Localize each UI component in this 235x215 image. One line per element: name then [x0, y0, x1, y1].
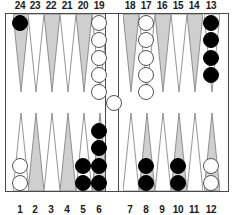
checker-black-point-8[interactable] — [138, 175, 154, 191]
point-label-12: 12 — [203, 204, 219, 215]
checker-white-point-12[interactable] — [203, 175, 219, 191]
checker-black-point-6[interactable] — [91, 123, 107, 139]
point-label-15: 15 — [170, 0, 186, 11]
point-label-9: 9 — [154, 204, 170, 215]
point-15[interactable] — [171, 14, 187, 92]
point-label-19: 19 — [91, 0, 107, 11]
point-20[interactable] — [76, 14, 92, 92]
point-label-10: 10 — [170, 204, 186, 215]
bar-checker-white[interactable] — [106, 95, 122, 111]
checker-black-point-13[interactable] — [203, 15, 219, 31]
checker-white-point-17[interactable] — [138, 50, 154, 66]
point-3[interactable] — [44, 113, 60, 191]
checker-white-point-12[interactable] — [203, 158, 219, 174]
point-label-5: 5 — [75, 204, 91, 215]
checker-black-point-10[interactable] — [170, 175, 186, 191]
point-label-18: 18 — [122, 0, 138, 11]
point-label-11: 11 — [186, 204, 202, 215]
checker-black-point-10[interactable] — [170, 158, 186, 174]
checker-black-point-6[interactable] — [91, 175, 107, 191]
point-label-8: 8 — [138, 204, 154, 215]
point-21[interactable] — [60, 14, 76, 92]
point-label-3: 3 — [43, 204, 59, 215]
point-label-6: 6 — [91, 204, 107, 215]
point-11[interactable] — [187, 113, 203, 191]
checker-white-point-1[interactable] — [12, 175, 28, 191]
point-label-14: 14 — [186, 0, 202, 11]
checker-white-point-1[interactable] — [12, 158, 28, 174]
checker-white-point-19[interactable] — [91, 67, 107, 83]
point-4[interactable] — [60, 113, 76, 191]
checker-black-point-24[interactable] — [12, 15, 28, 31]
checker-black-point-13[interactable] — [203, 67, 219, 83]
point-label-23: 23 — [27, 0, 43, 11]
point-2[interactable] — [28, 113, 44, 191]
point-18[interactable] — [123, 14, 139, 92]
checker-black-point-5[interactable] — [75, 158, 91, 174]
point-label-1: 1 — [12, 204, 28, 215]
point-22[interactable] — [44, 14, 60, 92]
point-16[interactable] — [155, 14, 171, 92]
point-label-22: 22 — [43, 0, 59, 11]
backgammon-screenshot: 242322212019181716151413 123456789101112 — [0, 0, 235, 215]
checker-white-point-19[interactable] — [91, 50, 107, 66]
checker-black-point-13[interactable] — [203, 50, 219, 66]
point-label-16: 16 — [154, 0, 170, 11]
point-label-2: 2 — [27, 204, 43, 215]
point-23[interactable] — [28, 14, 44, 92]
checker-white-point-17[interactable] — [138, 67, 154, 83]
point-7[interactable] — [123, 113, 139, 191]
checker-black-point-5[interactable] — [75, 175, 91, 191]
checker-black-point-6[interactable] — [91, 158, 107, 174]
point-14[interactable] — [187, 14, 203, 92]
point-9[interactable] — [155, 113, 171, 191]
point-label-17: 17 — [138, 0, 154, 11]
point-label-20: 20 — [75, 0, 91, 11]
point-label-4: 4 — [59, 204, 75, 215]
checker-white-point-17[interactable] — [138, 15, 154, 31]
point-label-13: 13 — [203, 0, 219, 11]
point-label-21: 21 — [59, 0, 75, 11]
point-label-7: 7 — [122, 204, 138, 215]
checker-black-point-8[interactable] — [138, 158, 154, 174]
checker-white-point-19[interactable] — [91, 15, 107, 31]
point-label-24: 24 — [12, 0, 28, 11]
